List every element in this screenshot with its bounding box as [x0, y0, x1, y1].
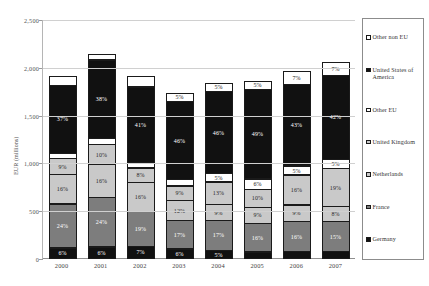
bar-segment-label: 17%	[213, 232, 224, 238]
bar-segment[interactable]: 37%	[49, 85, 77, 154]
bar-segment[interactable]: 9%	[49, 158, 77, 175]
bar-column[interactable]: 7%43%5%16%9%16%	[277, 20, 316, 259]
legend-item-label: Other EU	[373, 107, 397, 114]
gridline	[43, 116, 355, 117]
legend-swatch-icon	[366, 237, 371, 242]
bar-column[interactable]: 5%46%5%13%9%17%5%	[199, 20, 238, 259]
bar-segment[interactable]: 42%	[322, 75, 350, 159]
legend-item[interactable]: Other EU	[366, 107, 421, 114]
bar-stack[interactable]: 38%10%16%24%6%	[88, 51, 116, 259]
x-axis-labels: 20002001200220032004200520062007	[42, 262, 355, 269]
bar-segment[interactable]: 49%	[244, 89, 272, 179]
bar-segment[interactable]: 17%	[205, 220, 233, 251]
legend-item[interactable]: Netherlands	[366, 171, 421, 178]
bar-segment-label: 16%	[291, 187, 302, 193]
bar-segment[interactable]: 15%	[322, 221, 350, 251]
bar-column[interactable]: 41%8%16%19%7%	[121, 20, 160, 259]
bar-column[interactable]: 7%42%5%19%8%15%	[316, 20, 355, 259]
y-axis-tick-label: 1,500	[24, 112, 39, 119]
bar-segment[interactable]: 16%	[88, 164, 116, 197]
bar-segment[interactable]: 9%	[283, 205, 311, 222]
bar-stack[interactable]: 41%8%16%19%7%	[127, 73, 155, 259]
bar-segment[interactable]: 6%	[88, 247, 116, 260]
bar-segment[interactable]: 6%	[49, 248, 77, 259]
y-axis-tick-label: 1,000	[24, 160, 39, 167]
bar-segment-label: 7%	[136, 249, 144, 255]
bar-segment-label: 46%	[213, 130, 224, 136]
bar-stack[interactable]: 37%9%16%24%6%	[49, 73, 77, 259]
bar-segment[interactable]: 6%	[166, 249, 194, 259]
bar-segment[interactable]: 5%	[205, 250, 233, 259]
bar-segment-label: 10%	[252, 195, 263, 201]
bar-segment[interactable]	[283, 251, 311, 259]
legend-item[interactable]: United Kingdom	[366, 139, 421, 146]
legend-item[interactable]: France	[366, 204, 421, 211]
bar-segment-label: 37%	[57, 116, 68, 122]
bar-segment-label: 19%	[330, 185, 341, 191]
bar-segment[interactable]: 9%	[205, 204, 233, 220]
bar-stack[interactable]: 7%42%5%19%8%15%	[322, 58, 350, 259]
bar-column[interactable]: 5%46%9%12%17%6%	[160, 20, 199, 259]
bar-segment[interactable]: 13%	[205, 182, 233, 205]
bar-segment[interactable]	[127, 76, 155, 87]
bar-segment-label: 9%	[175, 190, 183, 196]
bar-segment[interactable]: 16%	[49, 174, 77, 204]
bar-segment[interactable]: 41%	[127, 87, 155, 163]
bar-segment[interactable]: 8%	[322, 206, 350, 222]
chart-legend: Other non EUUnited States of AmericaOthe…	[362, 18, 424, 260]
bar-segment-label: 17%	[174, 232, 185, 238]
bar-segment-label: 13%	[213, 190, 224, 196]
legend-item[interactable]: Germany	[366, 236, 421, 243]
bar-segment[interactable]: 9%	[244, 207, 272, 224]
bar-segment[interactable]: 24%	[88, 197, 116, 247]
bar-segment[interactable]: 19%	[322, 168, 350, 206]
bar-segment[interactable]: 10%	[244, 189, 272, 207]
bar-segment[interactable]: 43%	[283, 84, 311, 166]
bar-segment[interactable]: 9%	[166, 186, 194, 201]
legend-item-label: United States of America	[373, 67, 422, 82]
bar-column[interactable]: 38%10%16%24%6%	[82, 20, 121, 259]
legend-item[interactable]: Other non EU	[366, 34, 421, 41]
gridline	[43, 211, 355, 212]
bar-stack[interactable]: 5%49%6%10%9%16%	[244, 75, 272, 259]
bar-stack[interactable]: 5%46%5%13%9%17%5%	[205, 79, 233, 259]
bar-column[interactable]: 5%49%6%10%9%16%	[238, 20, 277, 259]
bar-segment[interactable]: 7%	[283, 71, 311, 84]
bar-segment-label: 9%	[58, 164, 66, 170]
bar-segment[interactable]: 7%	[127, 246, 155, 259]
y-axis-tick-mark	[39, 259, 43, 260]
bar-segment-label: 6%	[253, 181, 261, 187]
bar-segment[interactable]: 38%	[88, 60, 116, 139]
bar-stack[interactable]: 5%46%9%12%17%6%	[166, 88, 194, 259]
bar-segment[interactable]: 46%	[205, 91, 233, 174]
gridline	[43, 68, 355, 69]
bar-segment[interactable]: 16%	[244, 223, 272, 252]
bar-segment[interactable]: 17%	[166, 220, 194, 249]
bar-column[interactable]: 37%9%16%24%6%	[43, 20, 82, 259]
bar-segment-label: 16%	[96, 178, 107, 184]
bar-segment[interactable]: 16%	[283, 175, 311, 206]
y-axis-tick-label: 2,000	[24, 64, 39, 71]
gridline	[43, 163, 355, 164]
legend-swatch-icon	[366, 68, 371, 73]
bar-segment[interactable]	[322, 251, 350, 259]
legend-item[interactable]: United States of America	[366, 67, 421, 82]
bar-segment-label: 15%	[330, 234, 341, 240]
bar-segment[interactable]: 10%	[88, 144, 116, 165]
bar-segment-label: 5%	[214, 84, 222, 90]
bar-segment[interactable]: 19%	[127, 211, 155, 246]
bar-segment[interactable]: 16%	[283, 221, 311, 252]
bar-segment-label: 5%	[253, 82, 261, 88]
y-axis: EUR (millions) 2,5002,0001,5001,0005000	[0, 0, 42, 286]
bar-segment[interactable]	[244, 252, 272, 259]
y-axis-tick-label: 500	[29, 208, 39, 215]
bar-segment[interactable]: 7%	[322, 62, 350, 76]
bar-segment-label: 41%	[135, 122, 146, 128]
bar-segment[interactable]: 46%	[166, 101, 194, 180]
bar-segment[interactable]: 8%	[127, 168, 155, 183]
bar-segment-label: 46%	[174, 138, 185, 144]
bar-segment[interactable]: 16%	[127, 182, 155, 212]
x-axis-tick-label: 2001	[81, 262, 120, 269]
bar-segment-label: 5%	[214, 175, 222, 181]
bar-segment[interactable]: 6%	[244, 179, 272, 190]
